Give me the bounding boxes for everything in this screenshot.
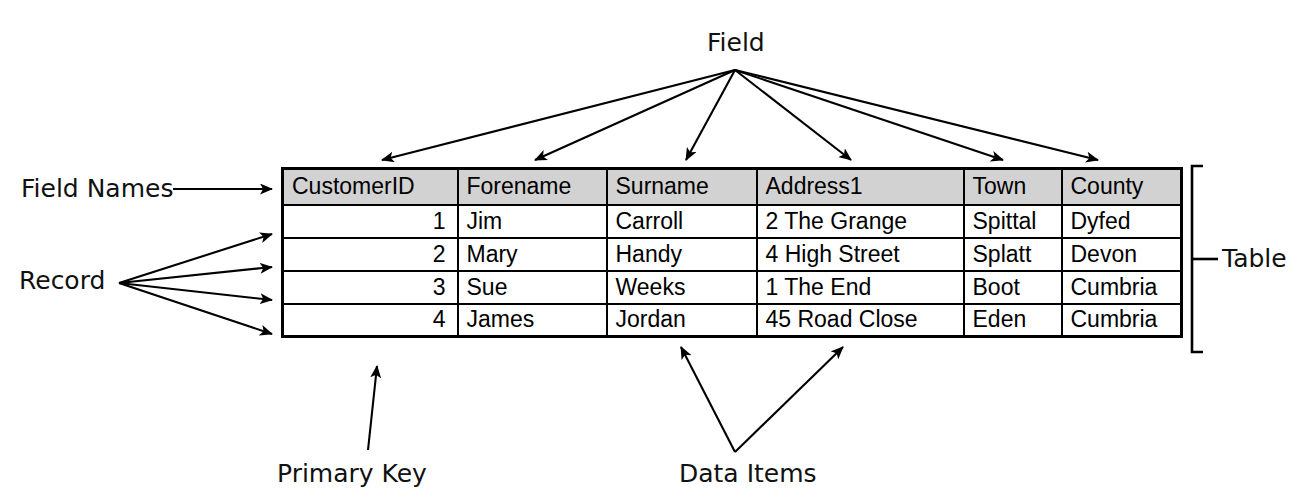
cell-address1: 45 Road Close (757, 304, 964, 337)
column-header-town: Town (964, 169, 1062, 205)
bracket-table (1192, 166, 1218, 352)
cell-county: Cumbria (1062, 304, 1182, 337)
annotation-label-field-names: Field Names (21, 176, 173, 201)
column-header-county: County (1062, 169, 1182, 205)
annotation-label-table: Table (1222, 246, 1287, 271)
cell-forename: Mary (458, 238, 607, 271)
table-row: 3 Sue Weeks 1 The End Boot Cumbria (283, 271, 1182, 304)
column-header-address1: Address1 (757, 169, 964, 205)
database-table: CustomerID Forename Surname Address1 Tow… (281, 167, 1183, 338)
cell-forename: Jim (458, 205, 607, 238)
cell-town: Splatt (964, 238, 1062, 271)
column-header-forename: Forename (458, 169, 607, 205)
cell-customer-id: 1 (283, 205, 458, 238)
annotation-label-primary-key: Primary Key (277, 461, 427, 486)
table-header-row: CustomerID Forename Surname Address1 Tow… (283, 169, 1182, 205)
table-row: 2 Mary Handy 4 High Street Splatt Devon (283, 238, 1182, 271)
annotation-label-data-items: Data Items (679, 461, 817, 486)
table-row: 1 Jim Carroll 2 The Grange Spittal Dyfed (283, 205, 1182, 238)
arrow-group-data-items (681, 347, 843, 452)
cell-county: Devon (1062, 238, 1182, 271)
diagram-canvas: Field Field Names Record Table Primary K… (0, 0, 1311, 497)
cell-surname: Carroll (607, 205, 757, 238)
arrow-primary-key (368, 366, 377, 450)
cell-county: Cumbria (1062, 271, 1182, 304)
cell-address1: 2 The Grange (757, 205, 964, 238)
cell-customer-id: 2 (283, 238, 458, 271)
annotation-label-field: Field (707, 30, 765, 55)
cell-town: Spittal (964, 205, 1062, 238)
cell-surname: Weeks (607, 271, 757, 304)
column-header-surname: Surname (607, 169, 757, 205)
cell-customer-id: 3 (283, 271, 458, 304)
cell-customer-id: 4 (283, 304, 458, 337)
arrow-group-field (382, 70, 1098, 160)
cell-forename: James (458, 304, 607, 337)
cell-county: Dyfed (1062, 205, 1182, 238)
annotation-label-record: Record (19, 268, 105, 293)
table-row: 4 James Jordan 45 Road Close Eden Cumbri… (283, 304, 1182, 337)
cell-town: Boot (964, 271, 1062, 304)
cell-address1: 1 The End (757, 271, 964, 304)
cell-forename: Sue (458, 271, 607, 304)
cell-surname: Jordan (607, 304, 757, 337)
cell-surname: Handy (607, 238, 757, 271)
arrow-group-record (119, 234, 272, 334)
cell-address1: 4 High Street (757, 238, 964, 271)
column-header-customer-id: CustomerID (283, 169, 458, 205)
cell-town: Eden (964, 304, 1062, 337)
